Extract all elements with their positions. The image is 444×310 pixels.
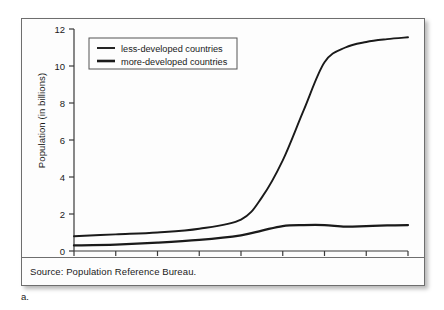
- legend-label-less-developed-countries: less-developed countries: [121, 44, 223, 54]
- y-tick-label: 10: [54, 61, 65, 72]
- y-tick-label: 0: [60, 246, 65, 257]
- source-bar: Source: Population Reference Bureau.: [22, 257, 424, 285]
- y-tick-group: 024681012: [54, 24, 74, 257]
- y-tick-label: 6: [60, 135, 65, 146]
- source-note: Source: Population Reference Bureau.: [22, 266, 196, 277]
- figure-panel: Population (in billions) 024681012 17501…: [21, 18, 425, 286]
- line-chart: 024681012 175018001850190019502000205021…: [22, 19, 424, 257]
- legend-label-more-developed-countries: more-developed countries: [121, 57, 228, 67]
- figure-root: Population (in billions) 024681012 17501…: [0, 0, 444, 310]
- legend: less-developed countries more-developed …: [89, 38, 237, 69]
- y-tick-label: 8: [60, 98, 65, 109]
- plot-area: Population (in billions) 024681012 17501…: [22, 19, 424, 257]
- y-tick-label: 12: [54, 24, 65, 35]
- y-tick-label: 4: [60, 172, 65, 183]
- y-tick-label: 2: [60, 209, 65, 220]
- line-more-developed-countries: [74, 225, 408, 246]
- figure-caption: a.: [21, 291, 29, 302]
